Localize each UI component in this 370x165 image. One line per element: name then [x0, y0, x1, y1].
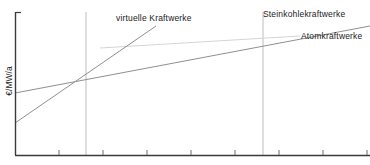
chart-plot-area	[0, 0, 370, 165]
plot-background	[0, 0, 370, 165]
chart-container: virtuelle Kraftwerke Steinkohlekraftwerk…	[0, 0, 370, 165]
y-axis-label: €/MW/a	[4, 53, 14, 109]
series-label-atomkraftwerke: Atomkraftwerke	[301, 31, 362, 41]
series-label-virtuelle-kraftwerke: virtuelle Kraftwerke	[116, 13, 192, 23]
series-label-steinkohlekraftwerke: Steinkohlekraftwerke	[263, 9, 345, 19]
